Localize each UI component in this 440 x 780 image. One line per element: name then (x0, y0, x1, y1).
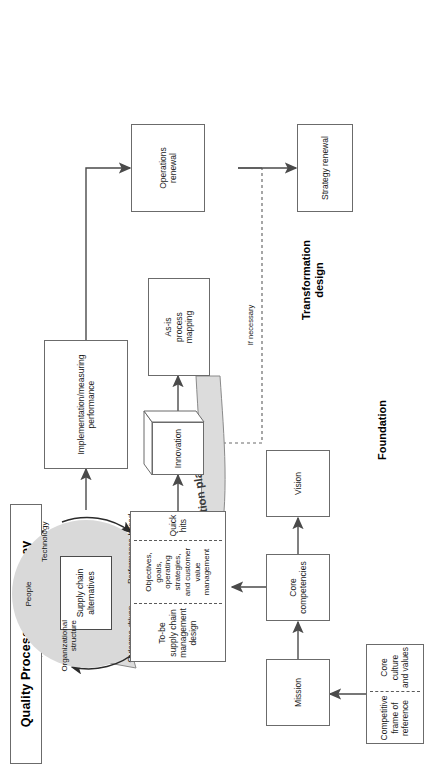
panel-divider-1 (134, 603, 222, 604)
as-is-process-mapping-box: As-is process mapping (148, 278, 210, 376)
foundation-divider (370, 691, 420, 692)
core-culture-cell: Core culture and values (366, 644, 424, 691)
cycle-node-organizational-structure: Organizational structure (50, 620, 79, 696)
figure-frame: Quality Process—The Journey Supply chain… (0, 0, 440, 780)
vision-box: Vision (266, 450, 330, 517)
implementation-box: Implementation/measuring performance (44, 340, 128, 469)
core-competencies-box: Core competencies (266, 554, 330, 621)
implementation-label: Implementation/measuring performance (76, 354, 97, 454)
operations-renewal-label: Operations renewal (158, 147, 179, 189)
innovation-label: Innovation (173, 429, 183, 468)
cycle-center-label: Supply chain alternatives (75, 569, 96, 618)
cycle-node-technology: Technology (40, 500, 50, 562)
strategy-renewal-label: Strategy renewal (320, 136, 330, 200)
to-be-supply-chain-label: To-be supply chain management design (157, 608, 198, 658)
cycle-node-people-label: People (24, 582, 33, 607)
competitive-frame-label: Competitive frame of reference (379, 696, 410, 741)
mission-label: Mission (293, 678, 303, 707)
operations-renewal-box: Operations renewal (131, 124, 205, 212)
objectives-goals-cell: Objectives, goals, operating strategies,… (130, 541, 226, 603)
cycle-center-box: Supply chain alternatives (60, 556, 112, 630)
cycle-node-people: People (24, 564, 34, 624)
to-be-supply-chain-cell: To-be supply chain management design (130, 604, 226, 662)
core-culture-label: Core culture and values (379, 646, 410, 689)
quick-hits-label: Quick hits (168, 513, 189, 538)
cycle-node-organizational-structure-label: Organizational structure (60, 620, 79, 672)
transformation-design-line1: Transformation (300, 200, 313, 360)
core-competencies-label: Core competencies (288, 561, 309, 613)
if-necessary-text: If necessary (246, 305, 255, 345)
transformation-design-line2: design (313, 200, 326, 360)
quick-hits-cell: Quick hits (130, 511, 226, 540)
transformation-design-section-label: Transformation design (300, 200, 326, 360)
as-is-process-mapping-label: As-is process mapping (163, 311, 194, 344)
innovation-box: Innovation (152, 422, 204, 475)
competitive-frame-cell: Competitive frame of reference (366, 692, 424, 744)
if-necessary-label: If necessary (246, 270, 255, 380)
cycle-node-technology-label: Technology (40, 522, 49, 562)
foundation-text: Foundation (376, 400, 388, 460)
mission-box: Mission (266, 659, 330, 726)
objectives-goals-label: Objectives, goals, operating strategies,… (144, 548, 212, 596)
vision-label: Vision (293, 472, 303, 495)
panel-divider-2 (134, 540, 222, 541)
foundation-section-label: Foundation (376, 370, 389, 490)
diagram-canvas: Quality Process—The Journey Supply chain… (0, 0, 440, 780)
strategy-renewal-box: Strategy renewal (297, 124, 353, 212)
